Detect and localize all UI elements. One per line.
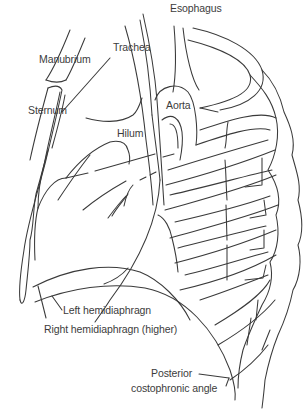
label-costophrenic-angle: costophronic angle — [131, 382, 217, 394]
label-right-hemidiaphragm: Right hemidiaphragn (higher) — [44, 323, 177, 335]
label-esophagus: Esophagus — [170, 2, 222, 14]
sternum-outline — [20, 86, 62, 303]
ribcage-outline — [165, 28, 302, 408]
label-hilum: Hilum — [117, 127, 143, 139]
label-manubrium: Manubrium — [39, 53, 91, 65]
label-sternum: Sternum — [28, 104, 67, 116]
aorta-outline — [155, 86, 197, 160]
chest-lateral-diagram: Esophagus Trachea Manubrium Aorta Sternu… — [0, 0, 308, 419]
label-trachea: Trachea — [113, 41, 150, 53]
label-posterior: Posterior — [151, 367, 192, 379]
label-aorta: Aorta — [166, 99, 191, 111]
label-left-hemidiaphragm: Left hemidiaphragn — [63, 304, 151, 316]
